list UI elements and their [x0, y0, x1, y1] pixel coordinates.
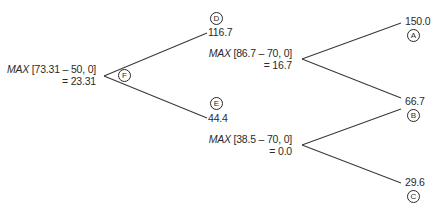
node-c-marker: C — [407, 190, 420, 203]
node-f-formula: MAX [73.31 – 50, 0] = 23.31 — [4, 63, 96, 87]
node-d-value: 116.7 — [208, 26, 233, 38]
max-func: MAX — [7, 63, 29, 75]
max-func: MAX — [209, 133, 231, 145]
edge-e-b — [302, 109, 401, 145]
node-f-marker: F — [118, 69, 131, 82]
max-func: MAX — [209, 47, 231, 59]
formula-result: = 0.0 — [269, 145, 292, 157]
node-a-value: 150.0 — [405, 15, 430, 27]
edge-e-c — [302, 145, 401, 183]
formula-result: = 16.7 — [264, 59, 292, 71]
node-d-formula: MAX [86.7 – 70, 0] = 16.7 — [200, 47, 292, 71]
node-e-formula: MAX [38.5 – 70, 0] = 0.0 — [200, 133, 292, 157]
node-e-value: 44.4 — [208, 112, 228, 124]
edge-f-e — [104, 76, 207, 118]
edge-d-b — [302, 59, 401, 98]
node-b-value: 66.7 — [405, 95, 425, 107]
edge-d-a — [302, 23, 401, 59]
node-c-value: 29.6 — [405, 176, 425, 188]
node-a-marker: A — [407, 29, 420, 42]
node-e-marker: E — [210, 97, 223, 110]
formula-args: [86.7 – 70, 0] — [234, 47, 293, 59]
formula-args: [38.5 – 70, 0] — [234, 133, 293, 145]
node-b-marker: B — [407, 109, 420, 122]
node-d-marker: D — [210, 12, 223, 25]
formula-result: = 23.31 — [62, 75, 96, 87]
formula-args: [73.31 – 50, 0] — [32, 63, 96, 75]
